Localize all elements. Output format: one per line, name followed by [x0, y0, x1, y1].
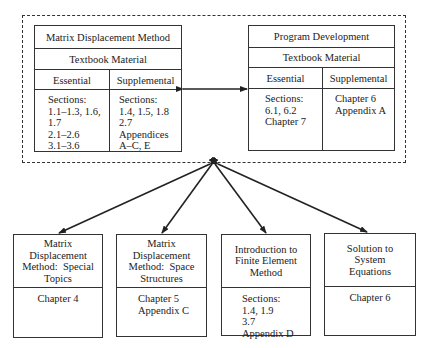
connector-arrows — [0, 0, 427, 348]
